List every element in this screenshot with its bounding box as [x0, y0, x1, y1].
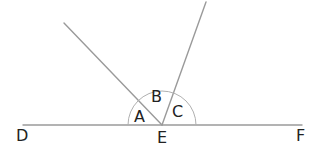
ray-right [162, 2, 206, 125]
angle-label-B: B [151, 87, 162, 106]
point-label-E: E [157, 128, 167, 147]
point-label-D: D [16, 126, 28, 145]
ray-left [64, 23, 162, 125]
angle-label-C: C [172, 102, 183, 121]
angle-label-A: A [134, 107, 145, 126]
point-label-F: F [296, 126, 305, 145]
angle-diagram: D E F A B C [0, 0, 328, 149]
